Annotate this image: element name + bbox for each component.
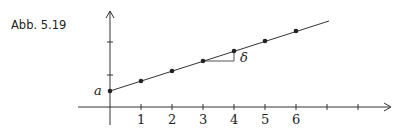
intercept-label: a: [94, 83, 102, 98]
point-4: [232, 49, 237, 54]
point-5: [263, 39, 268, 44]
point-0: [108, 89, 113, 94]
point-6: [294, 29, 299, 34]
point-2: [170, 69, 175, 74]
x-tick-label: 3: [199, 112, 207, 127]
delta-label: δ: [240, 50, 248, 65]
y-axis: [106, 11, 114, 125]
x-tick-labels: 1 2 3 4 5 6: [137, 112, 300, 127]
x-axis: [78, 103, 391, 111]
x-tick-label: 5: [261, 112, 269, 127]
sequence-points: [108, 29, 299, 94]
x-tick-label: 4: [230, 112, 238, 127]
x-tick-label: 2: [168, 112, 176, 127]
point-3: [201, 59, 206, 64]
x-tick-label: 1: [137, 112, 145, 127]
linear-sequence-diagram: a δ 1 2 3 4 5 6: [0, 0, 404, 130]
x-tick-label: 6: [292, 112, 300, 127]
point-1: [139, 79, 144, 84]
